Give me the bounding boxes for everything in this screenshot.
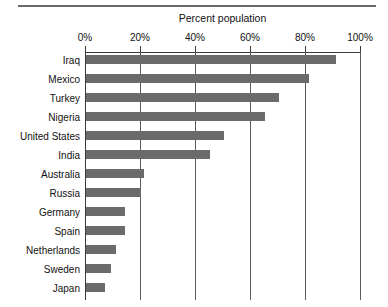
bar-row: Russia [0,185,388,204]
category-label: Nigeria [48,111,80,124]
bar-row: Sweden [0,261,388,280]
bar-rows: IraqMexicoTurkeyNigeriaUnited StatesIndi… [0,52,388,300]
bar-row: Australia [0,166,388,185]
category-label: Iraq [63,54,80,67]
x-axis-tick-labels: 0%20%40%60%80%100% [0,31,388,45]
bar [86,245,116,254]
bar [86,226,125,235]
bar [86,150,210,159]
bar [86,207,125,216]
category-label: Sweden [44,263,80,276]
x-tick-label: 40% [185,31,205,44]
bar-row: Iraq [0,52,388,71]
bar-row: United States [0,128,388,147]
x-tick-label: 80% [295,31,315,44]
category-label: Spain [54,225,80,238]
bar [86,169,144,178]
category-label: Turkey [50,92,80,105]
bar [86,93,279,102]
chart-figure: Percent population 0%20%40%60%80%100% Ir… [0,0,388,307]
category-label: Germany [39,206,80,219]
bar [86,264,111,273]
bar-row: Nigeria [0,109,388,128]
bar-row: Japan [0,280,388,299]
category-label: India [58,149,80,162]
bar-row: Turkey [0,90,388,109]
category-label: United States [20,130,80,143]
bar [86,55,336,64]
bar-row: Netherlands [0,242,388,261]
x-tick-label: 20% [130,31,150,44]
bar [86,112,265,121]
category-label: Japan [53,282,80,295]
bar [86,131,224,140]
bar-row: India [0,147,388,166]
bar [86,188,141,197]
category-label: Netherlands [26,244,80,257]
chart-title: Percent population [85,12,360,24]
x-tick-label: 0% [78,31,92,44]
bar [86,74,309,83]
bar-row: Mexico [0,71,388,90]
x-tick-label: 60% [240,31,260,44]
category-label: Australia [41,168,80,181]
bar-row: Spain [0,223,388,242]
bar-row: Germany [0,204,388,223]
top-divider-rule [18,5,376,7]
category-label: Russia [49,187,80,200]
bar [86,283,105,292]
x-tick-label: 100% [347,31,373,44]
category-label: Mexico [48,73,80,86]
